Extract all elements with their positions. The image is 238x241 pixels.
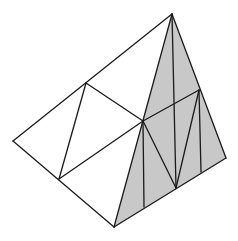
diagram-canvas (0, 0, 238, 241)
shaded-face (114, 14, 226, 227)
line-topmid-leftmid (59, 83, 86, 179)
line-topmid-center (86, 83, 143, 121)
edge-left-bottom (13, 141, 114, 227)
prism-diagram (0, 0, 238, 241)
